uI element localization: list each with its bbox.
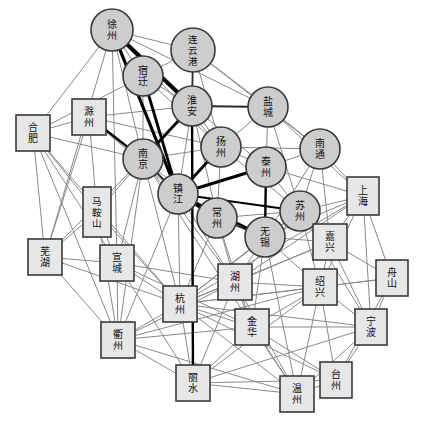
node-shaoxing[interactable]: 绍兴	[303, 269, 337, 305]
city-circle-taizhou_js[interactable]	[246, 147, 286, 187]
node-zhoushan[interactable]: 舟山	[376, 260, 408, 296]
city-circle-yancheng[interactable]	[248, 87, 288, 127]
node-hangzhou[interactable]: 杭州	[163, 286, 197, 322]
city-square-maanshan[interactable]	[83, 187, 111, 237]
node-jinhua[interactable]: 金华	[235, 309, 269, 345]
city-square-zhoushan[interactable]	[376, 260, 408, 296]
city-square-hangzhou[interactable]	[163, 286, 197, 322]
edge-jinhua-quzhou	[118, 327, 252, 340]
node-lianyungang[interactable]: 连云港	[171, 28, 215, 72]
node-quzhou[interactable]: 衢州	[101, 322, 135, 358]
node-shanghai[interactable]: 上海	[347, 177, 379, 215]
node-taizhou_zj[interactable]: 台州	[320, 362, 352, 398]
city-square-wenzhou[interactable]	[280, 376, 314, 412]
node-nantong[interactable]: 南通	[300, 129, 340, 169]
city-circle-changzhou[interactable]	[197, 198, 237, 238]
city-circle-nanjing[interactable]	[123, 139, 163, 179]
node-taizhou_js[interactable]: 泰州	[246, 147, 286, 187]
edge-huaian-lishui	[192, 106, 193, 383]
edge-hangzhou-ningbo	[180, 304, 371, 327]
city-square-huzhou[interactable]	[218, 264, 252, 300]
node-suqian[interactable]: 宿迁	[123, 56, 163, 96]
network-diagram-stage: 徐州连云港宿迁淮安盐城滁州合肥扬州南通南京泰州上海镇江马鞍山苏州常州无锡嘉兴芜湖…	[0, 0, 425, 428]
node-huaian[interactable]: 淮安	[172, 86, 212, 126]
city-circle-xuzhou[interactable]	[91, 9, 133, 51]
city-square-shanghai[interactable]	[347, 177, 379, 215]
node-maanshan[interactable]: 马鞍山	[83, 187, 111, 237]
node-wuhu[interactable]: 芜湖	[28, 239, 62, 275]
city-square-taizhou_zj[interactable]	[320, 362, 352, 398]
city-square-xuancheng[interactable]	[100, 245, 134, 281]
city-square-quzhou[interactable]	[101, 322, 135, 358]
node-nanjing[interactable]: 南京	[123, 139, 163, 179]
node-wenzhou[interactable]: 温州	[280, 376, 314, 412]
node-huzhou[interactable]: 湖州	[218, 264, 252, 300]
city-square-chuzhou[interactable]	[72, 99, 106, 135]
node-zhenjiang[interactable]: 镇江	[158, 174, 198, 214]
city-circle-suqian[interactable]	[123, 56, 163, 96]
node-hefei[interactable]: 合肥	[16, 115, 50, 151]
city-square-shaoxing[interactable]	[303, 269, 337, 305]
city-square-jiaxing[interactable]	[313, 224, 347, 260]
node-xuzhou[interactable]: 徐州	[91, 9, 133, 51]
city-square-wuhu[interactable]	[28, 239, 62, 275]
node-yangzhou[interactable]: 扬州	[201, 127, 241, 167]
node-ningbo[interactable]: 宁波	[355, 309, 387, 345]
city-circle-huaian[interactable]	[172, 86, 212, 126]
city-circle-nantong[interactable]	[300, 129, 340, 169]
city-circle-wuxi[interactable]	[245, 217, 285, 257]
node-changzhou[interactable]: 常州	[197, 198, 237, 238]
city-circle-zhenjiang[interactable]	[158, 174, 198, 214]
node-wuxi[interactable]: 无锡	[245, 217, 285, 257]
node-yancheng[interactable]: 盐城	[248, 87, 288, 127]
city-square-ningbo[interactable]	[355, 309, 387, 345]
city-square-lishui[interactable]	[176, 365, 210, 401]
node-jiaxing[interactable]: 嘉兴	[313, 224, 347, 260]
node-chuzhou[interactable]: 滁州	[72, 99, 106, 135]
city-square-jinhua[interactable]	[235, 309, 269, 345]
city-square-hefei[interactable]	[16, 115, 50, 151]
city-network-graph: 徐州连云港宿迁淮安盐城滁州合肥扬州南通南京泰州上海镇江马鞍山苏州常州无锡嘉兴芜湖…	[0, 0, 425, 428]
city-circle-yangzhou[interactable]	[201, 127, 241, 167]
city-circle-lianyungang[interactable]	[171, 28, 215, 72]
node-xuancheng[interactable]: 宣城	[100, 245, 134, 281]
node-lishui[interactable]: 丽水	[176, 365, 210, 401]
